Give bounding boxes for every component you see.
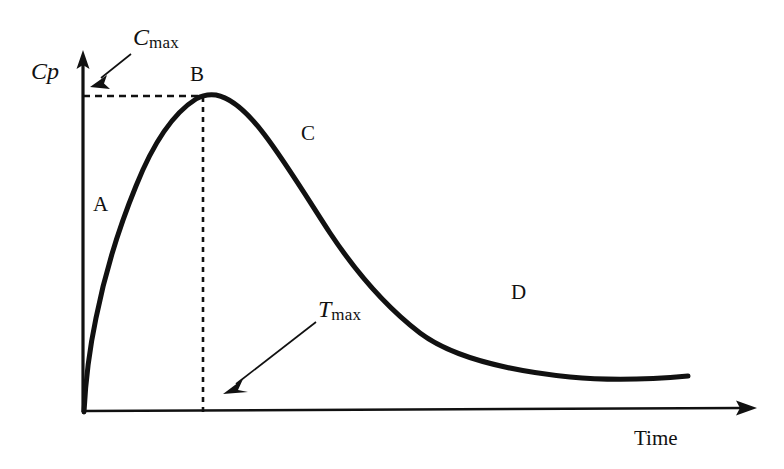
- tmax-annotation-arrow: [223, 322, 316, 394]
- phase-label-a: A: [93, 194, 108, 215]
- pk-curve-figure: Cp Time Cmax Tmax A B C D: [0, 0, 784, 469]
- cmax-label: Cmax: [133, 25, 179, 49]
- x-axis-line: [83, 408, 742, 411]
- cmax-annotation-arrow: [90, 54, 131, 89]
- tmax-subscript: max: [331, 305, 361, 324]
- cmax-arrowhead-icon: [90, 75, 110, 89]
- x-axis-label: Time: [634, 428, 678, 449]
- phase-label-b: B: [190, 64, 204, 85]
- plasma-concentration-curve: [84, 95, 688, 412]
- phase-label-c: C: [301, 123, 315, 144]
- cmax-subscript: max: [149, 33, 179, 52]
- phase-label-d: D: [511, 282, 526, 303]
- tmax-arrow-shaft: [236, 322, 316, 384]
- y-axis-label: Cp: [31, 59, 59, 83]
- tmax-label: Tmax: [318, 297, 361, 321]
- cmax-arrow-shaft: [101, 54, 131, 78]
- tmax-symbol: T: [318, 296, 331, 322]
- pk-curve-canvas: [0, 0, 784, 469]
- x-axis: [83, 401, 757, 416]
- tmax-arrowhead-icon: [223, 379, 248, 394]
- cmax-symbol: C: [133, 24, 149, 50]
